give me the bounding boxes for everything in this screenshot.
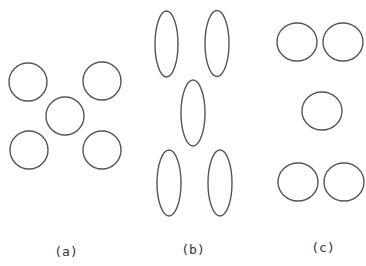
circle-shape	[277, 23, 317, 61]
panel-label: (b)	[181, 242, 204, 257]
panel-b: (b)	[155, 11, 232, 258]
circle-shape	[10, 131, 48, 169]
circle-shape	[83, 62, 121, 100]
ellipse-shape	[155, 11, 178, 77]
ellipse-shape	[205, 11, 229, 77]
shape-arrangement-diagram: (a) (b) (c)	[0, 0, 366, 266]
ellipse-shape	[157, 150, 181, 216]
circle-shape	[9, 63, 47, 101]
circle-shape	[83, 131, 121, 169]
ellipse-shape	[208, 150, 232, 216]
circle-shape	[46, 97, 84, 135]
circle-shape	[278, 163, 318, 201]
circle-shape	[324, 163, 364, 201]
ellipse-shape	[181, 80, 205, 146]
circle-shape	[302, 92, 342, 130]
panel-a: (a)	[9, 62, 121, 259]
circle-shape	[323, 23, 363, 61]
panel-label: (a)	[54, 244, 77, 259]
panel-c: (c)	[277, 23, 364, 255]
panel-label: (c)	[311, 240, 334, 255]
